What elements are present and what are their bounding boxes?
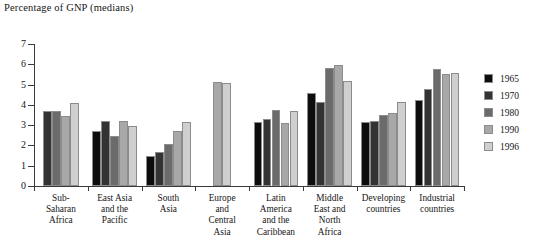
category-label: LatinAmericaand theCaribbean: [249, 193, 303, 238]
category-label: Industrialcountries: [410, 193, 464, 215]
bar-1990-latin-america-and-the-caribbean: [281, 123, 289, 186]
category-separator: [249, 186, 250, 191]
category-separator: [142, 186, 143, 191]
bar-1970-east-asia-and-the-pacific: [101, 121, 109, 186]
y-axis-tick-labels: 01234567: [0, 0, 26, 252]
bar-1996-middle-east-and-north-africa: [343, 81, 351, 186]
bar-group: [361, 44, 405, 186]
bar-1970-developing-countries: [370, 121, 378, 186]
y-axis-tick-label: 7: [4, 39, 26, 49]
bar-1970-south-asia: [155, 152, 163, 186]
legend-swatch-icon: [484, 125, 493, 134]
bar-1990-europe-and-central-asia: [213, 82, 221, 186]
legend-item-label: 1990: [500, 125, 519, 135]
bar-1970-middle-east-and-north-africa: [316, 102, 324, 186]
bar-1980-east-asia-and-the-pacific: [110, 136, 118, 186]
category-label: SouthAsia: [142, 193, 196, 215]
category-label: MiddleEast andNorthAfrica: [303, 193, 357, 238]
bar-1970-industrial-countries: [424, 89, 432, 186]
category-label: EuropeandCentralAsia: [195, 193, 249, 238]
category-separator: [410, 186, 411, 191]
plot-area: [34, 44, 464, 186]
bar-1980-developing-countries: [379, 115, 387, 186]
bar-1996-europe-and-central-asia: [222, 83, 230, 186]
bar-group: [43, 44, 78, 186]
bar-1965-middle-east-and-north-africa: [307, 93, 315, 186]
legend-item-1965[interactable]: 1965: [484, 70, 519, 87]
category-separator: [303, 186, 304, 191]
legend-item-1970[interactable]: 1970: [484, 87, 519, 104]
bar-group: [415, 44, 459, 186]
bar-1965-industrial-countries: [415, 100, 423, 186]
legend-item-label: 1980: [500, 108, 519, 118]
bar-1996-industrial-countries: [451, 73, 459, 186]
category-label: East Asiaand thePacific: [88, 193, 142, 227]
bar-1980-middle-east-and-north-africa: [325, 68, 333, 186]
legend-swatch-icon: [484, 108, 493, 117]
bar-group: [92, 44, 136, 186]
bar-chart: Percentage of GNP (medians) 01234567 Sub…: [0, 0, 539, 252]
bar-1965-south-asia: [146, 156, 154, 186]
bar-1990-east-asia-and-the-pacific: [119, 121, 127, 186]
y-axis-tick-label: 3: [4, 120, 26, 130]
bar-1970-sub-saharan-africa: [43, 111, 51, 186]
bar-1980-latin-america-and-the-caribbean: [272, 110, 280, 186]
bar-1965-east-asia-and-the-pacific: [92, 131, 100, 186]
bar-1990-middle-east-and-north-africa: [334, 65, 342, 186]
y-axis-tick-label: 2: [4, 140, 26, 150]
bar-group: [254, 44, 298, 186]
legend-item-1980[interactable]: 1980: [484, 104, 519, 121]
legend-item-1996[interactable]: 1996: [484, 138, 519, 155]
bar-1980-industrial-countries: [433, 69, 441, 186]
legend-swatch-icon: [484, 74, 493, 83]
bar-group: [307, 44, 351, 186]
y-axis-tick-label: 4: [4, 100, 26, 110]
legend-swatch-icon: [484, 142, 493, 151]
legend-swatch-icon: [484, 91, 493, 100]
bar-1970-latin-america-and-the-caribbean: [263, 119, 271, 186]
bar-1965-developing-countries: [361, 122, 369, 186]
bar-group: [146, 44, 190, 186]
bar-1996-sub-saharan-africa: [70, 103, 78, 186]
category-label: Developingcountries: [357, 193, 411, 215]
bar-1980-sub-saharan-africa: [52, 111, 60, 186]
bar-1965-latin-america-and-the-caribbean: [254, 122, 262, 186]
category-separator: [34, 186, 35, 191]
bar-1990-sub-saharan-africa: [61, 116, 69, 186]
bar-1990-south-asia: [173, 131, 181, 186]
category-separator: [464, 186, 465, 191]
bar-1990-industrial-countries: [442, 74, 450, 186]
category-separator: [357, 186, 358, 191]
bar-1996-east-asia-and-the-pacific: [128, 126, 136, 186]
category-separator: [195, 186, 196, 191]
bar-1996-latin-america-and-the-caribbean: [290, 111, 298, 186]
bar-1980-south-asia: [164, 144, 172, 186]
bar-group: [213, 44, 230, 186]
bar-1996-south-asia: [182, 122, 190, 186]
y-axis-tick-label: 0: [4, 181, 26, 191]
legend-item-1990[interactable]: 1990: [484, 121, 519, 138]
y-axis-tick-label: 5: [4, 80, 26, 90]
legend: 19651970198019901996: [484, 70, 519, 155]
bar-1990-developing-countries: [388, 113, 396, 186]
y-axis-tick-label: 1: [4, 161, 26, 171]
category-label: Sub-SaharanAfrica: [34, 193, 88, 227]
category-separator: [88, 186, 89, 191]
bar-1996-developing-countries: [397, 102, 405, 186]
legend-item-label: 1965: [500, 74, 519, 84]
legend-item-label: 1996: [500, 142, 519, 152]
legend-item-label: 1970: [500, 91, 519, 101]
y-axis-tick-label: 6: [4, 59, 26, 69]
